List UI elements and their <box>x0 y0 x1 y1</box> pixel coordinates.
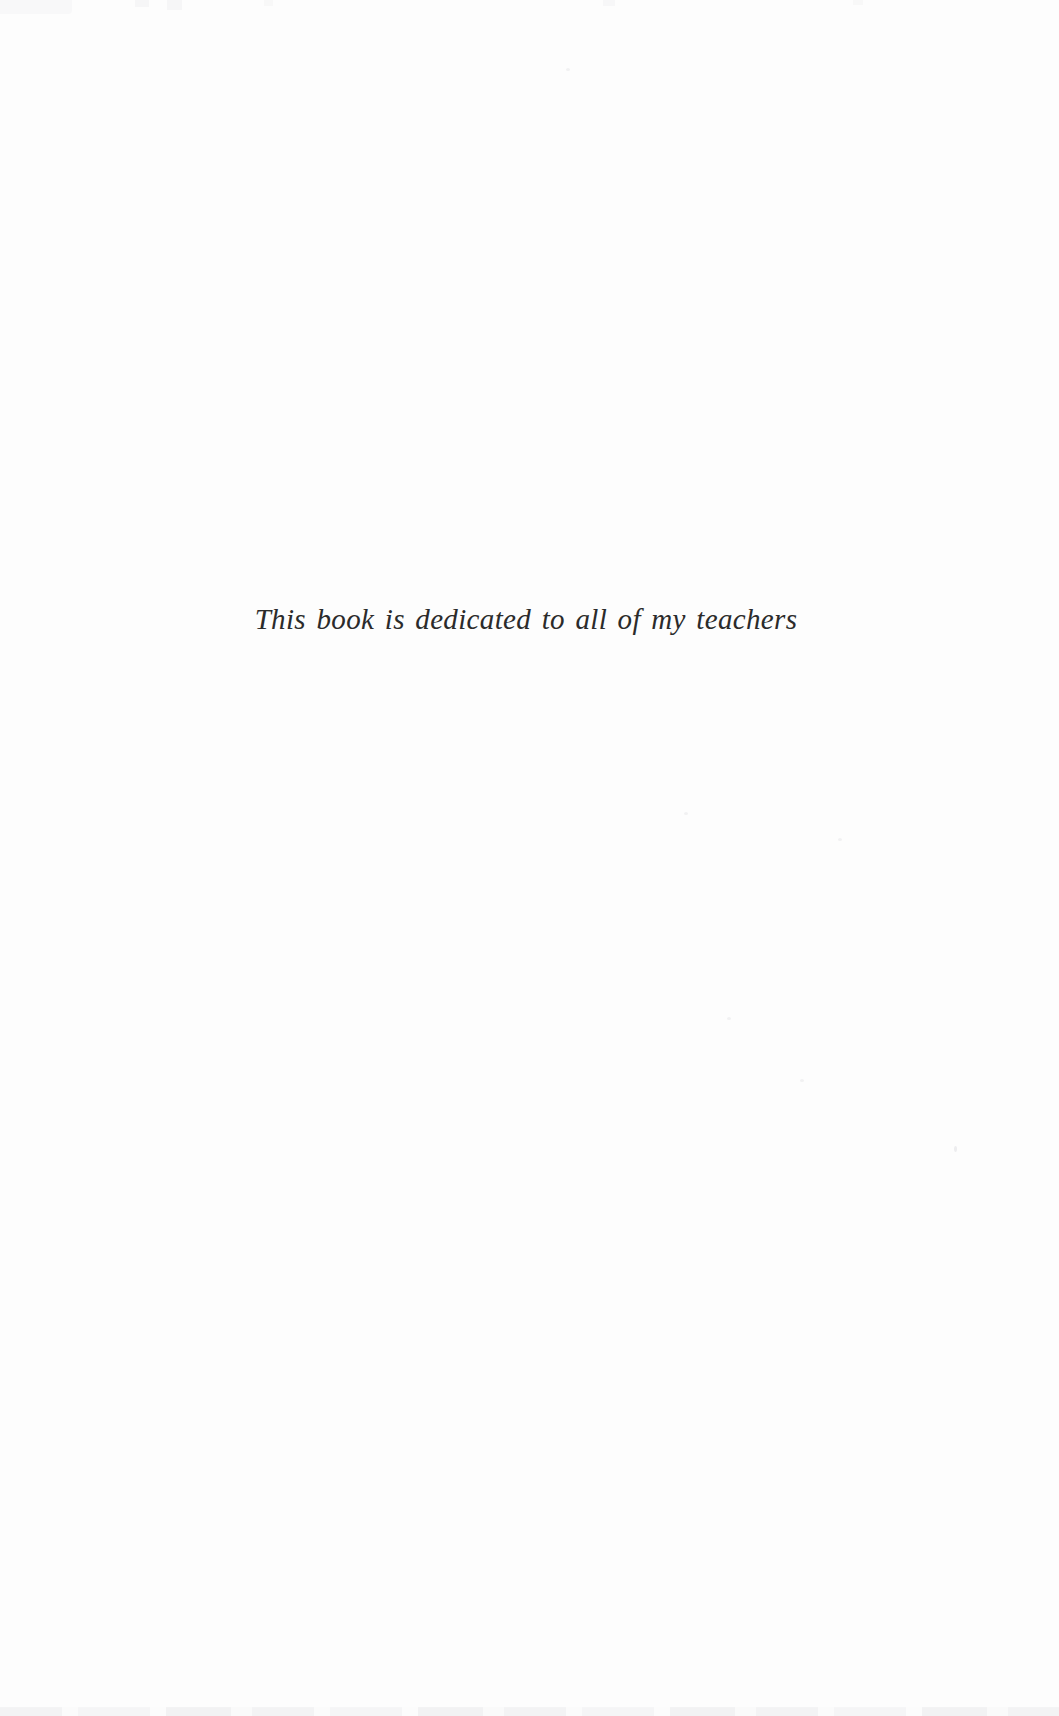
scan-speck <box>727 1017 731 1020</box>
scan-artifact-bottom-edge-fade <box>0 1702 1059 1708</box>
scan-artifact-top-edge <box>603 0 615 6</box>
scan-artifact-top-edge <box>0 0 72 14</box>
scan-speck <box>838 838 842 841</box>
book-page: This book is dedicated to all of my teac… <box>0 0 1059 1716</box>
scan-artifact-top-edge <box>167 0 182 10</box>
scan-artifact-bottom-edge <box>0 1707 1059 1716</box>
scan-speck <box>684 812 688 815</box>
scan-artifact-top-edge <box>853 0 863 5</box>
scan-artifact-top-edge <box>264 0 273 6</box>
scan-speck <box>954 1146 957 1152</box>
scan-speck <box>566 68 570 71</box>
scan-speck <box>800 1079 804 1082</box>
dedication-text: This book is dedicated to all of my teac… <box>0 600 1052 638</box>
scan-artifact-top-edge <box>135 0 149 7</box>
